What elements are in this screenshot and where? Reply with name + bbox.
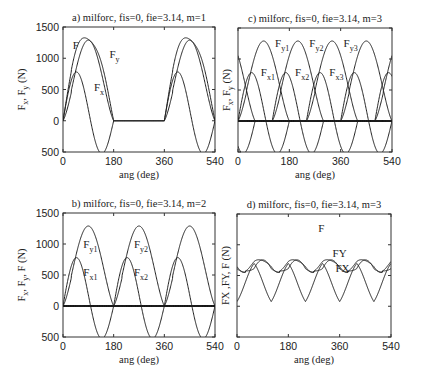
series-annotation: F	[318, 222, 324, 234]
series-annotation: Fy3	[344, 37, 358, 53]
x-tick-label: 540	[206, 155, 224, 167]
series-annotation: Fx1	[261, 66, 275, 82]
x-tick-label: 180	[105, 340, 123, 352]
series-Fx-tooth	[238, 73, 392, 154]
y-tick-label: 500	[41, 146, 59, 158]
series-annotation: FX	[335, 262, 349, 274]
figure: a) milforc, fis=0, fie=3.14, m=101803605…	[0, 0, 424, 375]
x-axis-label: ang (deg)	[295, 169, 335, 181]
panel-c: c) milforc, fis=0, fie=3.14, m=301803605…	[221, 13, 401, 181]
x-tick-label: 540	[383, 155, 401, 167]
x-axis-label: ang (deg)	[119, 169, 159, 181]
x-tick-label: 0	[60, 155, 66, 167]
y-tick-label: 0	[53, 300, 59, 312]
x-tick-label: 540	[206, 340, 224, 352]
y-tick-label: 500	[41, 331, 59, 343]
panel-title: c) milforc, fis=0, fie=3.14, m=3	[248, 13, 382, 25]
panel-title: b) milforc, fis=0, fie=3.14, m=2	[72, 198, 206, 210]
series-annotation: Fx2	[295, 66, 309, 82]
x-axis-label: ang (deg)	[119, 354, 159, 366]
y-tick-label: 500	[41, 269, 59, 281]
panel-title: a) milforc, fis=0, fie=3.14, m=1	[72, 12, 206, 24]
y-axis-label: FX ,FY, F (N)	[220, 245, 232, 305]
x-tick-label: 360	[156, 155, 174, 167]
x-tick-label: 180	[105, 155, 123, 167]
x-tick-label: 0	[235, 155, 241, 167]
series-annotation: Fy1	[275, 37, 289, 53]
series-Fx-tooth	[238, 73, 392, 154]
series-Fx	[63, 72, 215, 154]
y-axis-label: Fx, Fy, F (N)	[16, 248, 30, 302]
x-tick-label: 360	[331, 340, 349, 352]
x-tick-label: 540	[382, 340, 400, 352]
x-tick-label: 180	[280, 340, 298, 352]
y-tick-label: 1500	[36, 21, 60, 33]
series-FX	[237, 263, 391, 301]
y-tick-label: 1000	[36, 52, 60, 64]
series-annotation: Fy1	[83, 238, 97, 254]
series-annotation: F	[73, 39, 79, 51]
y-tick-label: 1500	[36, 207, 60, 219]
y-tick-label: 500	[41, 84, 59, 96]
series-annotation: Fy2	[134, 238, 148, 254]
panel-b: b) milforc, fis=0, fie=3.14, m=201803605…	[16, 198, 224, 366]
series-Fx-tooth	[238, 121, 392, 154]
series-annotation: Fy2	[309, 37, 323, 53]
series-annotation: Fx	[94, 81, 104, 97]
y-tick-label: 0	[53, 115, 59, 127]
panel-title: d) milforc, fis=0, fie=3.14, m=3	[247, 199, 381, 211]
x-tick-label: 0	[234, 340, 240, 352]
series-Fx-tooth	[238, 73, 392, 154]
series-annotation: Fx3	[329, 66, 343, 82]
plot-frame	[63, 27, 215, 152]
x-tick-label: 360	[332, 155, 350, 167]
y-axis-label: Fx, Fy (N)	[221, 68, 235, 111]
y-tick-label: 1000	[36, 238, 60, 250]
panel-d: d) milforc, fis=0, fie=3.14, m=301803605…	[220, 199, 400, 366]
x-tick-label: 0	[60, 340, 66, 352]
y-axis-label: Fx, Fy (N)	[16, 68, 30, 111]
series-annotation: FY	[333, 247, 347, 259]
x-tick-label: 180	[281, 155, 299, 167]
series-F	[63, 38, 215, 121]
series-Fy	[63, 40, 215, 121]
x-axis-label: ang (deg)	[294, 354, 334, 366]
x-tick-label: 360	[156, 340, 174, 352]
series-Fx-tooth	[238, 73, 392, 154]
panel-a: a) milforc, fis=0, fie=3.14, m=101803605…	[16, 12, 224, 181]
series-annotation: Fy	[109, 48, 119, 64]
